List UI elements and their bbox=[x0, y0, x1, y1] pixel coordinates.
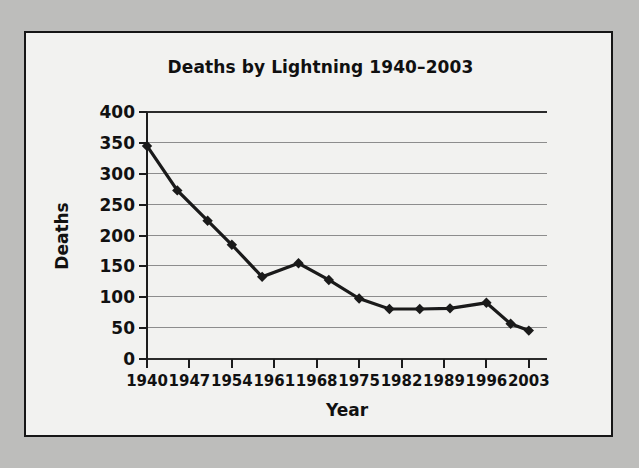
x-tick-1940 bbox=[146, 359, 148, 368]
x-axis-title: Year bbox=[147, 400, 547, 420]
x-tick-label-1961: 1961 bbox=[253, 372, 295, 390]
y-tick-300 bbox=[139, 173, 147, 175]
chart-area: Deaths by Lightning 1940–2003 Deaths 050… bbox=[26, 33, 615, 439]
y-tick-label-300: 300 bbox=[100, 164, 136, 184]
y-tick-200 bbox=[139, 235, 147, 237]
x-tick-label-1940: 1940 bbox=[126, 372, 168, 390]
y-tick-label-400: 400 bbox=[100, 102, 136, 122]
y-tick-250 bbox=[139, 204, 147, 206]
x-tick-2003 bbox=[528, 359, 530, 368]
y-tick-400 bbox=[139, 111, 147, 113]
y-tick-label-200: 200 bbox=[100, 226, 136, 246]
y-tick-label-50: 50 bbox=[111, 318, 135, 338]
y-tick-50 bbox=[139, 327, 147, 329]
y-tick-label-150: 150 bbox=[100, 256, 136, 276]
x-tick-label-2003: 2003 bbox=[508, 372, 550, 390]
x-tick-1947 bbox=[188, 359, 190, 368]
x-tick-1975 bbox=[358, 359, 360, 368]
y-tick-label-350: 350 bbox=[100, 133, 136, 153]
plot-region: 050100150200250300350400 194019471954196… bbox=[147, 112, 547, 359]
x-tick-1982 bbox=[401, 359, 403, 368]
y-tick-100 bbox=[139, 296, 147, 298]
x-tick-1961 bbox=[273, 359, 275, 368]
x-tick-1989 bbox=[443, 359, 445, 368]
data-point-1990 bbox=[445, 303, 455, 313]
x-tick-label-1996: 1996 bbox=[466, 372, 508, 390]
x-tick-1968 bbox=[316, 359, 318, 368]
x-tick-label-1947: 1947 bbox=[169, 372, 211, 390]
data-point-2003 bbox=[524, 325, 534, 335]
x-tick-label-1968: 1968 bbox=[296, 372, 338, 390]
x-tick-1996 bbox=[485, 359, 487, 368]
x-tick-label-1982: 1982 bbox=[381, 372, 423, 390]
y-tick-label-250: 250 bbox=[100, 195, 136, 215]
data-point-1980 bbox=[384, 304, 394, 314]
x-tick-1954 bbox=[231, 359, 233, 368]
data-series-line bbox=[147, 112, 547, 359]
y-tick-150 bbox=[139, 265, 147, 267]
page-background: Deaths by Lightning 1940–2003 Deaths 050… bbox=[0, 0, 639, 468]
x-tick-label-1954: 1954 bbox=[211, 372, 253, 390]
y-tick-label-0: 0 bbox=[123, 349, 135, 369]
data-point-1985 bbox=[415, 304, 425, 314]
chart-title: Deaths by Lightning 1940–2003 bbox=[26, 57, 615, 77]
y-tick-label-100: 100 bbox=[100, 287, 136, 307]
x-tick-label-1975: 1975 bbox=[338, 372, 380, 390]
y-axis-title: Deaths bbox=[52, 202, 72, 269]
data-point-markers bbox=[142, 141, 534, 336]
x-tick-label-1989: 1989 bbox=[423, 372, 465, 390]
chart-frame: Deaths by Lightning 1940–2003 Deaths 050… bbox=[24, 31, 613, 437]
